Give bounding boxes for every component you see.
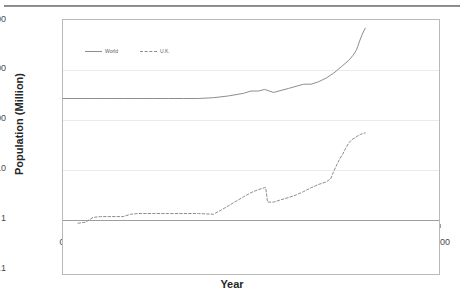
series-line-uk <box>78 133 365 223</box>
y-tick-label-10: 10 <box>0 164 6 173</box>
y-tick-label-10000: 10,000 <box>0 15 6 24</box>
y-tick-label-100: 100 <box>0 114 6 123</box>
page-header-divider <box>4 5 460 7</box>
series-layer <box>63 20 439 274</box>
population-chart-figure: Population (Million) Year 10,000 1000 10… <box>0 10 464 294</box>
y-tick-label-0.1: 0.1 <box>0 264 6 273</box>
series-line-world <box>63 28 365 98</box>
plot-area: World U.K. <box>62 19 440 275</box>
y-axis-title: Population (Million) <box>13 49 25 199</box>
x-tick-mark-2500 <box>440 224 441 228</box>
chart-page: Population (Million) Year 10,000 1000 10… <box>0 0 464 294</box>
x-axis-title: Year <box>0 278 464 290</box>
y-tick-label-1: 1 <box>1 214 6 223</box>
y-tick-label-1000: 1000 <box>0 64 6 73</box>
